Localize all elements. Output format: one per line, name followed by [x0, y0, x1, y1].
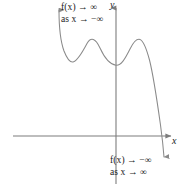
x-axis-label: x	[172, 135, 176, 146]
annotation-right-end-behavior: f(x) → −∞ as x → ∞	[110, 155, 152, 178]
y-axis-label: y	[110, 0, 114, 10]
graph-canvas	[0, 0, 183, 189]
annotation-left-line1: f(x) → ∞	[61, 2, 103, 14]
annotation-left-line2: as x → −∞	[61, 14, 103, 26]
annotation-right-line1: f(x) → −∞	[110, 155, 152, 167]
annotation-left-end-behavior: f(x) → ∞ as x → −∞	[61, 2, 103, 25]
annotation-right-line2: as x → ∞	[110, 167, 152, 179]
polynomial-curve	[59, 10, 164, 157]
polynomial-end-behavior-figure: f(x) → ∞ as x → −∞ f(x) → −∞ as x → ∞ y …	[0, 0, 183, 189]
